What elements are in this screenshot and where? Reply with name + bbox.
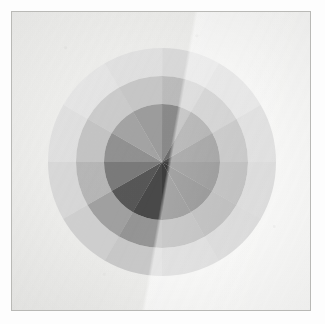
color-wheel	[12, 12, 311, 311]
color-wheel-svg	[12, 12, 311, 311]
ring-inner	[104, 104, 220, 220]
paper-sheet	[11, 11, 311, 311]
plate-canvas	[0, 0, 325, 324]
